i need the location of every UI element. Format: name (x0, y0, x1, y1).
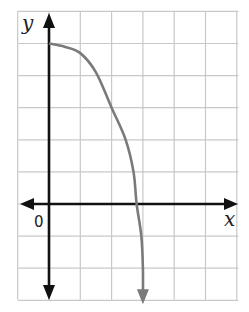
origin-label: 0 (34, 213, 44, 231)
x-axis-label: x (224, 207, 235, 231)
y-axis-up-arrow-icon (43, 13, 55, 28)
y-axis-down-arrow-icon (43, 285, 55, 300)
curve-down-arrow-icon (137, 289, 149, 304)
y-axis-label: y (21, 11, 34, 35)
curve-series (49, 44, 149, 305)
x-axis-left-arrow-icon (20, 198, 34, 210)
graph: y x 0 (0, 0, 249, 312)
grid (18, 11, 239, 300)
